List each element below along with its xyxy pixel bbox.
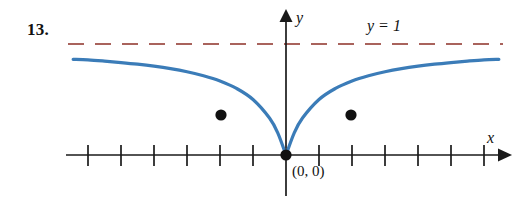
x-axis-label: x [487,129,494,147]
x-axis-arrowhead [498,149,512,162]
y-axis-label: y [296,9,303,27]
origin-point [280,149,291,160]
graph-plot [0,0,527,206]
origin-point-label: (0, 0) [292,163,325,180]
y-axis-arrowhead [280,9,293,22]
asymptote-label: y = 1 [367,17,401,35]
figure-container: 13. y = 1 y [0,0,527,206]
left-marked-point [215,109,226,120]
right-marked-point [345,109,356,120]
